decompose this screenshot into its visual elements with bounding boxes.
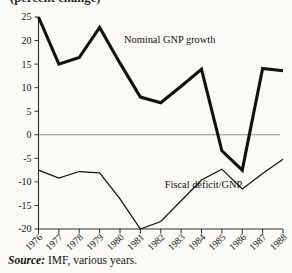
series-line <box>39 159 284 229</box>
y-tick-label: 10 <box>22 82 32 93</box>
series-annotations: Nominal GNP growthFiscal deficit/GNP <box>124 34 243 191</box>
x-tick-label: 1979 <box>84 231 106 250</box>
chart-plot: Nominal GNP growthFiscal deficit/GNP 252… <box>0 0 292 250</box>
x-tick-label: 1985 <box>206 231 228 250</box>
x-tick-label: 1984 <box>186 231 208 250</box>
x-tick-label: 1983 <box>165 231 187 250</box>
y-tick-label: 0 <box>27 129 32 140</box>
x-tick-label: 1988 <box>267 231 289 250</box>
x-axis-labels: 1976197719781979198019811982198319841985… <box>23 231 289 250</box>
source-label: Source: <box>8 254 45 266</box>
y-tick-label: 20 <box>22 35 32 46</box>
data-series-group <box>39 17 284 229</box>
x-tick-label: 1982 <box>145 231 167 250</box>
series-annotation: Nominal GNP growth <box>124 34 216 45</box>
y-tick-label: -20 <box>18 223 31 234</box>
x-tick-label: 1987 <box>247 231 269 250</box>
x-tick-label: 1977 <box>43 231 65 250</box>
y-tick-label: 5 <box>27 106 32 117</box>
series-annotation: Fiscal deficit/GNP <box>165 179 243 190</box>
y-tick-label: -10 <box>18 176 31 187</box>
source-value: IMF, various years. <box>45 254 137 266</box>
x-tick-label: 1978 <box>64 231 86 250</box>
x-tick-label: 1981 <box>125 231 147 250</box>
figure-container: (percent change) Nominal GNP growthFisca… <box>0 0 292 273</box>
x-tick-label: 1980 <box>104 231 126 250</box>
y-tick-label: -5 <box>23 153 31 164</box>
y-tick-label: -15 <box>18 200 31 211</box>
y-axis-ticks <box>35 17 39 229</box>
y-tick-label: 15 <box>22 59 32 70</box>
x-tick-label: 1986 <box>227 231 249 250</box>
y-axis-labels: 2520151050-5-10-15-20 <box>18 11 31 234</box>
axis-lines <box>39 17 284 229</box>
y-tick-label: 25 <box>22 11 32 22</box>
source-note: Source: IMF, various years. <box>8 254 137 266</box>
